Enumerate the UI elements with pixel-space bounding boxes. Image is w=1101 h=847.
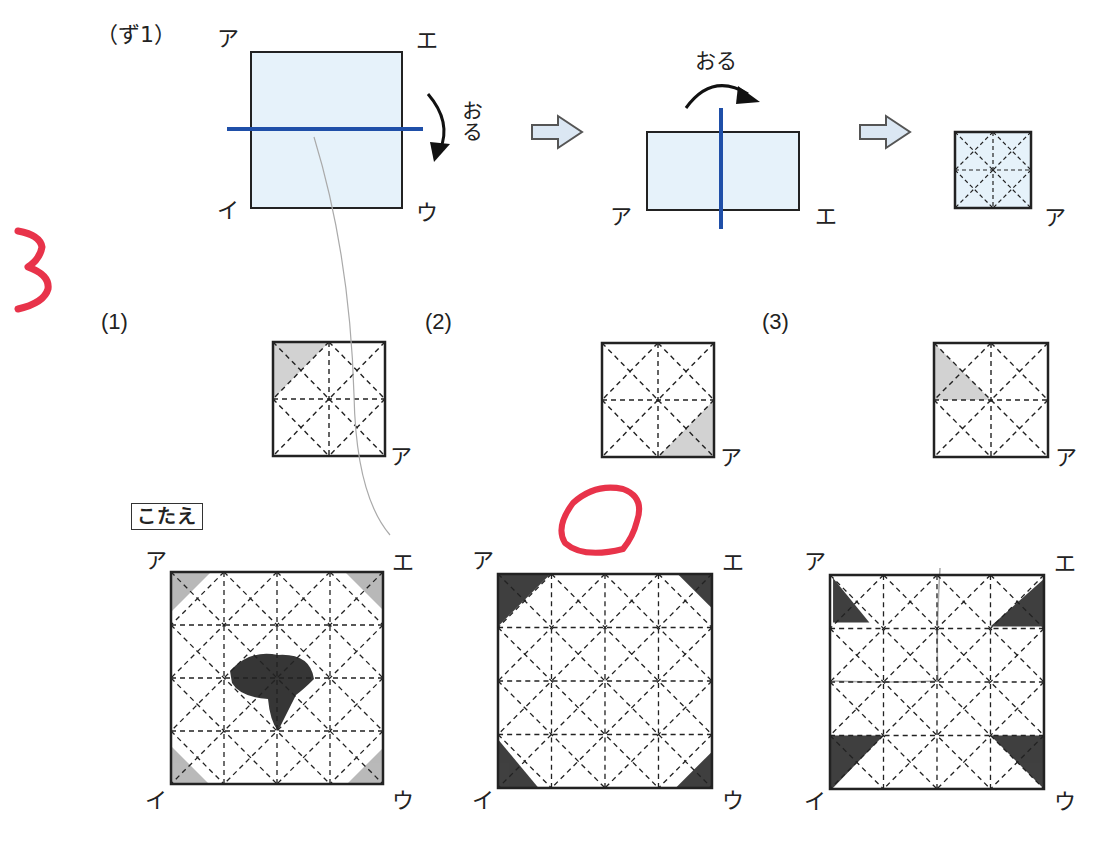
folded-square-step3	[954, 131, 1032, 209]
corner-label-a: ア	[804, 551, 826, 573]
corner-label-i: イ	[472, 790, 494, 812]
answer-grid-2[interactable]	[497, 572, 715, 792]
question-square-3	[933, 342, 1049, 458]
corner-label-a: ア	[720, 447, 742, 469]
corner-label-a: ア	[217, 28, 239, 50]
corner-label-a: ア	[1044, 207, 1066, 229]
question-label-2: (2)	[425, 311, 452, 333]
corner-label-i: イ	[145, 790, 167, 812]
vertical-fold-line	[719, 108, 723, 229]
fold-arrow-down-icon	[420, 90, 460, 170]
question-label-3: (3)	[762, 311, 789, 333]
corner-label-i: イ	[217, 200, 239, 222]
handwritten-problem-number	[10, 225, 60, 315]
corner-label-a: ア	[1055, 447, 1077, 469]
corner-label-i: イ	[804, 791, 826, 813]
answer-grid-3[interactable]	[829, 573, 1047, 793]
corner-label-u: ウ	[392, 790, 414, 812]
corner-label-e: エ	[815, 206, 837, 228]
corner-label-a: ア	[610, 206, 632, 228]
fold-label-vertical: おる	[458, 100, 482, 142]
corner-label-e: エ	[722, 552, 744, 574]
horizontal-fold-line	[227, 127, 423, 131]
corner-label-e: エ	[416, 30, 438, 52]
grading-circle-mark	[553, 481, 647, 561]
next-step-arrow-icon	[858, 114, 914, 154]
answer-grid-1[interactable]	[170, 571, 386, 787]
corner-label-u: ウ	[1054, 791, 1076, 813]
corner-label-a: ア	[472, 550, 494, 572]
paper-rectangle-step2	[646, 131, 800, 211]
question-label-1: (1)	[101, 311, 128, 333]
fold-arrow-right-icon	[680, 76, 770, 112]
next-step-arrow-icon	[530, 114, 586, 154]
figure-title: （ず1）	[96, 16, 176, 48]
corner-label-e: エ	[1054, 553, 1076, 575]
stray-pencil-line	[310, 135, 400, 535]
corner-label-a: ア	[145, 550, 167, 572]
corner-label-u: ウ	[416, 202, 438, 224]
corner-label-u: ウ	[722, 790, 744, 812]
corner-label-e: エ	[392, 552, 414, 574]
fold-label-horizontal: おる	[695, 44, 737, 74]
answer-heading: こたえ	[131, 503, 203, 530]
question-square-2	[601, 342, 715, 458]
